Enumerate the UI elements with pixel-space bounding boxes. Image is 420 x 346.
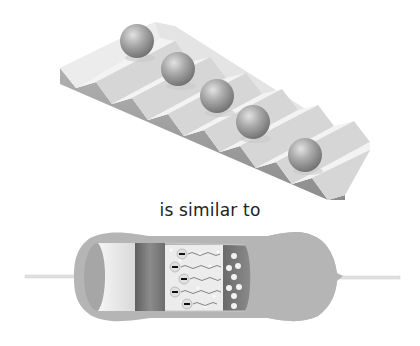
ball-5 — [288, 138, 322, 172]
core-dark-segment — [135, 243, 165, 311]
resistor-figure — [0, 225, 420, 346]
ball-3 — [200, 79, 234, 113]
staircase-figure — [0, 0, 420, 200]
body-overlay — [245, 232, 337, 321]
ball-4 — [236, 105, 270, 139]
caption-text: is similar to — [0, 200, 420, 220]
ball-1 — [120, 24, 154, 58]
ball-2 — [161, 52, 195, 86]
